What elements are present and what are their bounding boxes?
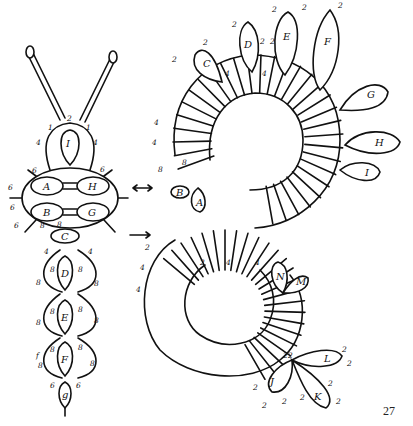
svg-text:2: 2 — [337, 1, 343, 10]
svg-text:A: A — [42, 181, 50, 192]
svg-text:B: B — [42, 207, 50, 218]
svg-text:8: 8 — [78, 265, 83, 274]
svg-text:8: 8 — [78, 343, 83, 352]
svg-text:4: 4 — [87, 247, 93, 256]
arrow-symbols — [130, 185, 152, 238]
svg-text:8: 8 — [36, 278, 41, 287]
svg-text:2: 2 — [327, 379, 333, 388]
svg-text:6: 6 — [32, 166, 37, 175]
svg-text:2: 2 — [252, 383, 258, 392]
svg-text:4: 4 — [254, 258, 260, 267]
svg-text:4: 4 — [225, 258, 231, 267]
svg-text:8: 8 — [57, 220, 62, 229]
svg-text:2: 2 — [335, 397, 341, 406]
svg-text:4: 4 — [151, 138, 157, 147]
svg-text:g: g — [62, 389, 68, 400]
svg-text:2: 2 — [261, 401, 267, 410]
svg-text:8: 8 — [158, 165, 163, 174]
svg-text:2: 2 — [171, 55, 177, 64]
insect-figure: I 2 1 1 4 4 A H B G 6 6 6 6 6 — [8, 46, 128, 416]
svg-text:f: f — [35, 351, 40, 360]
wings: A H B G 6 6 6 6 6 — [8, 165, 128, 232]
svg-text:F: F — [60, 354, 69, 365]
svg-text:B: B — [175, 187, 183, 198]
svg-text:8: 8 — [36, 318, 41, 327]
svg-text:G: G — [367, 89, 375, 100]
svg-text:8: 8 — [38, 361, 43, 370]
svg-text:2: 2 — [231, 20, 237, 29]
svg-text:6: 6 — [8, 183, 13, 192]
top-petal-rings: C D E F G H I 22 22 22 22 44 — [171, 1, 400, 180]
svg-text:E: E — [60, 312, 69, 323]
svg-text:8: 8 — [94, 279, 99, 288]
svg-text:H: H — [374, 137, 384, 148]
svg-text:4: 4 — [43, 247, 49, 256]
svg-text:2: 2 — [281, 397, 287, 406]
spiral-segments — [164, 55, 343, 379]
svg-text:8: 8 — [40, 221, 45, 230]
svg-text:1: 1 — [86, 123, 91, 132]
svg-text:4: 4 — [92, 138, 98, 147]
svg-text:4: 4 — [135, 285, 141, 294]
svg-text:8: 8 — [182, 158, 187, 167]
svg-text:2: 2 — [299, 393, 305, 402]
svg-text:6: 6 — [76, 381, 81, 390]
svg-text:C: C — [61, 231, 69, 242]
antennae — [26, 46, 117, 122]
tatting-diagram: I 2 1 1 4 4 A H B G 6 6 6 6 6 — [0, 0, 413, 426]
spiral-figure: 44 88 24 42 44 — [135, 55, 343, 379]
inner-rings-AB: B A — [171, 186, 205, 212]
page-number: 27 — [383, 404, 395, 419]
svg-text:2: 2 — [341, 345, 347, 354]
svg-text:H: H — [87, 181, 97, 192]
svg-text:2: 2 — [199, 258, 205, 267]
svg-text:C: C — [203, 58, 211, 69]
svg-text:4: 4 — [35, 138, 41, 147]
svg-text:8: 8 — [50, 307, 55, 316]
svg-text:6: 6 — [10, 203, 15, 212]
svg-text:4: 4 — [224, 69, 230, 78]
svg-text:2: 2 — [301, 3, 307, 12]
svg-text:2: 2 — [202, 38, 208, 47]
svg-text:4: 4 — [153, 118, 159, 127]
svg-text:6: 6 — [14, 221, 19, 230]
svg-text:4: 4 — [139, 263, 145, 272]
svg-text:D: D — [60, 268, 69, 279]
svg-text:L: L — [323, 353, 331, 364]
svg-text:M: M — [295, 276, 307, 287]
abdomen-segments: D E F g 8888 8888 f8888 66 — [35, 250, 99, 416]
svg-text:A: A — [195, 197, 203, 208]
svg-text:8: 8 — [50, 345, 55, 354]
svg-text:8: 8 — [90, 359, 95, 368]
svg-text:K: K — [313, 391, 322, 402]
head-ring-I: I 2 1 1 4 4 — [35, 114, 98, 170]
svg-text:F: F — [323, 36, 332, 47]
svg-text:2: 2 — [269, 37, 275, 46]
svg-text:8: 8 — [94, 316, 99, 325]
svg-text:2: 2 — [346, 359, 352, 368]
svg-text:2: 2 — [287, 351, 293, 360]
svg-text:2: 2 — [259, 37, 265, 46]
svg-text:E: E — [282, 31, 291, 42]
svg-text:G: G — [88, 207, 96, 218]
inner-rings-NM: N M — [272, 262, 309, 293]
svg-text:D: D — [243, 39, 252, 50]
svg-text:4: 4 — [261, 69, 267, 78]
svg-text:J: J — [268, 376, 275, 387]
svg-text:2: 2 — [144, 243, 150, 252]
svg-text:6: 6 — [100, 165, 105, 174]
svg-text:8: 8 — [50, 265, 55, 274]
bottom-petal-rings: J K L 22 22 22 22 22 — [252, 345, 352, 410]
svg-text:1: 1 — [48, 123, 53, 132]
svg-text:2: 2 — [271, 5, 277, 14]
svg-text:6: 6 — [50, 381, 55, 390]
svg-text:N: N — [275, 271, 286, 282]
svg-text:2: 2 — [66, 114, 72, 123]
svg-text:8: 8 — [78, 305, 83, 314]
